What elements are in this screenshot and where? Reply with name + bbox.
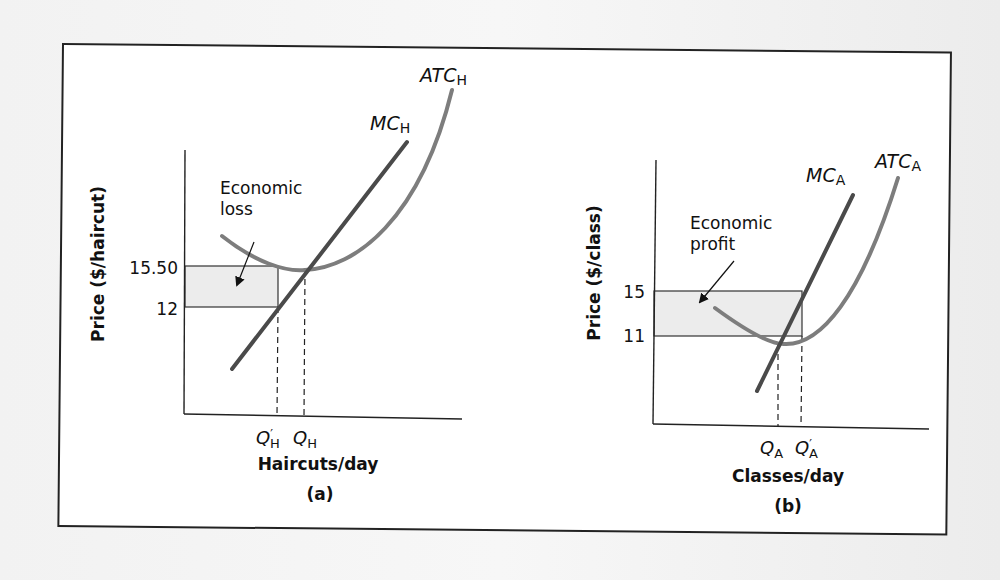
tick-label-11: 11 [623, 326, 645, 346]
atc-h-label: ATCH [418, 64, 467, 88]
y-axis-label-a: Price ($/haircut) [88, 186, 108, 342]
q-h-dropline [304, 269, 305, 417]
q-a-label: QA [760, 437, 783, 461]
panel-b-caption: (b) [774, 496, 802, 516]
economic-loss-label-line1: Economic [220, 178, 302, 198]
mc-h-line [232, 142, 407, 369]
atc-a-label: ATCA [873, 150, 922, 174]
q-prime-a-dropline [801, 336, 802, 427]
economic-profit-label-line1: Economic [690, 213, 772, 233]
x-axis-b [653, 424, 929, 429]
tick-label-15: 15 [623, 282, 645, 302]
y-axis-a [184, 150, 185, 414]
x-axis-label-a: Haircuts/day [258, 454, 379, 474]
x-axis-label-b: Classes/day [732, 466, 844, 486]
tick-label-15-50: 15.50 [129, 258, 178, 278]
economic-profit-label-line2: profit [690, 234, 736, 254]
q-prime-h-dropline [277, 307, 278, 416]
economic-loss-area [185, 266, 278, 307]
y-axis-label-b: Price ($/class) [584, 205, 604, 340]
mc-h-label: MCH [370, 112, 410, 136]
x-axis-a [184, 414, 462, 419]
mc-a-label: MCA [806, 164, 846, 188]
panel-a-caption: (a) [306, 484, 333, 504]
page: 15.50 12 Economic loss MCH ATCH Q′H QH H… [0, 0, 1000, 580]
panel-a: 15.50 12 Economic loss MCH ATCH Q′H QH H… [88, 64, 467, 504]
figure-canvas: 15.50 12 Economic loss MCH ATCH Q′H QH H… [0, 0, 1000, 580]
panel-b: 15 11 Economic profit MCA ATCA QA Q′A Cl… [584, 150, 929, 516]
q-prime-h-label: Q′H [256, 427, 280, 451]
q-prime-a-label: Q′A [795, 437, 818, 461]
q-h-label: QH [293, 427, 317, 451]
economic-loss-label-line2: loss [220, 199, 253, 219]
tick-label-12: 12 [156, 299, 178, 319]
economic-profit-area [654, 291, 802, 336]
